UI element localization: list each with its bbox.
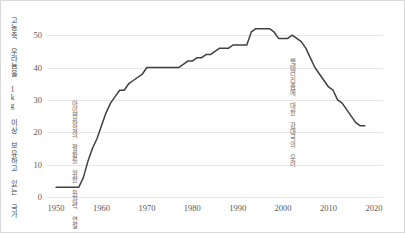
x-tick-label: 1960 xyxy=(93,203,110,213)
x-tick-label: 1970 xyxy=(138,203,155,213)
y-axis-title-text: 고농축 우라늄을 1kg 이상 보유하고 있는 국가 xyxy=(8,17,15,218)
y-tick-label: 20 xyxy=(34,127,43,137)
series-polyline xyxy=(56,29,365,188)
y-tick-label: 0 xyxy=(38,192,42,202)
chart-figure: 고농축 우라늄을 1kg 이상 보유하고 있는 국가 01020304050 1… xyxy=(0,0,405,233)
x-tick-label: 1990 xyxy=(229,203,246,213)
y-tick-label: 40 xyxy=(34,63,43,73)
y-tick-label: 50 xyxy=(34,30,43,40)
x-tick-label: 1950 xyxy=(48,203,65,213)
plot-area: 01020304050 1950196019701980199020002010… xyxy=(47,19,383,197)
x-tick-label: 2010 xyxy=(320,203,337,213)
y-axis-title: 고농축 우라늄을 1kg 이상 보유하고 있는 국가 xyxy=(3,1,21,233)
x-tick-label: 2000 xyxy=(275,203,292,213)
y-tick-label: 10 xyxy=(34,160,43,170)
gridline xyxy=(47,197,383,198)
x-tick-label: 2020 xyxy=(365,203,382,213)
x-tick-label: 1980 xyxy=(184,203,201,213)
data-series-line xyxy=(47,19,383,197)
y-tick-label: 30 xyxy=(34,95,43,105)
